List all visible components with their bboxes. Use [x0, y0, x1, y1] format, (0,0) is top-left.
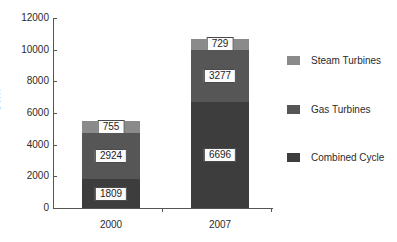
y-tick-label-6000: 6000 — [0, 108, 49, 118]
x-tick-mark-end — [271, 208, 272, 212]
y-tick-label-4000: 4000 — [0, 140, 49, 150]
y-tick-label-0: 0 — [0, 203, 49, 213]
legend-item-steam-turbines[interactable]: Steam Turbines — [287, 55, 381, 66]
bar-segment-combined-2000[interactable]: 1809 — [82, 179, 140, 208]
y-tick-label-10000: 10000 — [0, 45, 49, 55]
legend-swatch-icon-gas-turbines — [287, 105, 300, 114]
bar-value-combined-2007: 6696 — [204, 148, 236, 162]
bar-value-steam-2000: 755 — [98, 120, 125, 134]
bar-segment-steam-2000[interactable]: 755 — [82, 121, 140, 133]
bar-segment-steam-2007[interactable]: 729 — [191, 39, 249, 51]
bar-segment-gas-2007[interactable]: 3277 — [191, 50, 249, 102]
x-axis-line — [53, 208, 273, 209]
bar-stack-2000: 755 2924 1809 — [82, 121, 140, 208]
bar-segment-gas-2000[interactable]: 2924 — [82, 133, 140, 179]
legend-item-combined-cycle[interactable]: Combined Cycle — [287, 152, 384, 163]
bar-stack-2007: 729 3277 6696 — [191, 39, 249, 208]
y-tick-label-8000: 8000 — [0, 76, 49, 86]
bar-value-gas-2007: 3277 — [204, 69, 236, 83]
legend-swatch-icon-steam-turbines — [287, 56, 300, 65]
stacked-bar-chart: GWh 12000 10000 8000 6000 4000 2000 0 75… — [0, 0, 397, 242]
x-tick-mark-middle — [162, 208, 163, 212]
bars-layer: 755 2924 1809 729 3277 6696 — [54, 18, 272, 208]
bar-value-combined-2000: 1809 — [95, 187, 127, 201]
bar-value-gas-2000: 2924 — [95, 149, 127, 163]
legend-label-steam-turbines: Steam Turbines — [311, 55, 381, 66]
y-tick-label-2000: 2000 — [0, 171, 49, 181]
x-category-label-2000: 2000 — [76, 219, 146, 230]
legend-label-gas-turbines: Gas Turbines — [311, 104, 370, 115]
legend-item-gas-turbines[interactable]: Gas Turbines — [287, 104, 370, 115]
y-tick-label-12000: 12000 — [0, 13, 49, 23]
bar-segment-combined-2007[interactable]: 6696 — [191, 102, 249, 208]
legend-label-combined-cycle: Combined Cycle — [311, 152, 384, 163]
x-category-label-2007: 2007 — [185, 219, 255, 230]
legend-swatch-icon-combined-cycle — [287, 153, 300, 162]
